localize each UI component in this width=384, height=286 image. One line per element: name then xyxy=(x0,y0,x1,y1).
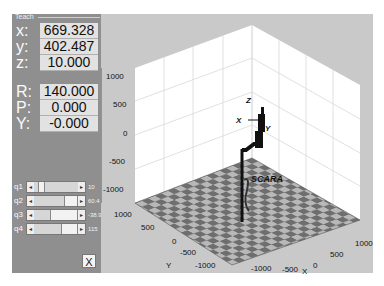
z-tick-neg500: -500 xyxy=(109,157,125,166)
axes-3d xyxy=(101,14,373,273)
y-row: y: 402.487 xyxy=(16,39,98,55)
roll-value: 140.000 xyxy=(40,84,98,100)
z-tick-neg1000: -1000 xyxy=(103,185,123,194)
y-value: 402.487 xyxy=(40,39,98,55)
x-tick-1000: 1000 xyxy=(355,239,373,248)
y-axis-label: Y xyxy=(166,261,171,270)
pitch-row: P: 0.000 xyxy=(16,100,98,116)
joint-q4-label: q4 xyxy=(14,224,26,233)
z-tick-500: 500 xyxy=(113,100,126,109)
x-value: 669.328 xyxy=(40,23,98,39)
joint-q3-label: q3 xyxy=(14,210,26,219)
yaw-label: Y: xyxy=(16,116,40,132)
arrow-right-icon[interactable]: ▸ xyxy=(78,196,85,206)
joint-q3-row: q3 ◂ ▸ -38.9 xyxy=(14,208,102,221)
x-axis-label: X xyxy=(302,267,307,276)
y-tick-500: 500 xyxy=(141,223,154,232)
x-tick-0: 0 xyxy=(313,261,317,270)
y-tick-1000: 1000 xyxy=(114,210,132,219)
x-row: x: 669.328 xyxy=(16,23,98,39)
z-tick-1000: 1000 xyxy=(106,72,124,81)
joint-q2-slider[interactable]: ◂ ▸ xyxy=(26,195,86,207)
z-tick-0: 0 xyxy=(123,129,127,138)
y-label: y: xyxy=(16,39,40,55)
pitch-value: 0.000 xyxy=(40,100,98,116)
arrow-left-icon[interactable]: ◂ xyxy=(27,224,34,234)
pitch-label: P: xyxy=(16,100,40,116)
x-tick-500: 500 xyxy=(330,250,343,259)
arrow-left-icon[interactable]: ◂ xyxy=(27,196,34,206)
yaw-row: Y: -0.000 xyxy=(16,116,98,132)
joint-q4-row: q4 ◂ ▸ 115 xyxy=(14,222,102,235)
joint-q2-label: q2 xyxy=(14,196,26,205)
joint-q1-thumb[interactable] xyxy=(38,182,45,192)
arrow-right-icon[interactable]: ▸ xyxy=(78,182,85,192)
close-button[interactable]: X xyxy=(82,254,96,268)
joint-q2-value: 60.4 xyxy=(88,198,102,204)
x-label: x: xyxy=(16,23,40,39)
joint-q2-row: q2 ◂ ▸ 60.4 xyxy=(14,194,102,207)
roll-row: R: 140.000 xyxy=(16,84,98,100)
joint-q1-label: q1 xyxy=(14,182,26,191)
frame-z-label: Z xyxy=(246,96,251,105)
panel-divider xyxy=(38,17,100,18)
frame-x-label: X xyxy=(236,116,241,125)
x-tick-neg500: -500 xyxy=(282,265,298,274)
joint-q4-value: 115 xyxy=(88,226,102,232)
z-row: z: 10.000 xyxy=(16,55,98,71)
y-tick-neg1000: -1000 xyxy=(195,261,215,270)
arrow-right-icon[interactable]: ▸ xyxy=(78,224,85,234)
joint-q4-thumb[interactable] xyxy=(61,224,78,234)
joint-q3-value: -38.9 xyxy=(88,212,102,218)
y-tick-0: 0 xyxy=(172,237,176,246)
z-value: 10.000 xyxy=(40,55,98,71)
joint-q3-slider[interactable]: ◂ ▸ xyxy=(26,209,86,221)
joint-q4-slider[interactable]: ◂ ▸ xyxy=(26,223,86,235)
joint-q1-slider[interactable]: ◂ ▸ xyxy=(26,181,86,193)
panel-title: Teach xyxy=(15,13,34,20)
joint-q1-value: 10 xyxy=(88,184,102,190)
x-tick-neg1000: -1000 xyxy=(251,264,271,273)
arrow-left-icon[interactable]: ◂ xyxy=(27,182,34,192)
frame-y-label: Y xyxy=(265,124,270,133)
z-label: z: xyxy=(16,55,40,71)
y-tick-neg500: -500 xyxy=(180,248,196,257)
teach-panel: Teach x: 669.328 y: 402.487 z: 10.000 R:… xyxy=(12,14,101,273)
robot-3d-plot[interactable]: Z X Y SCARA 1000 500 0 -500 -1000 1000 5… xyxy=(101,14,373,273)
joint-q2-thumb[interactable] xyxy=(64,196,78,206)
robot-name-label: SCARA xyxy=(251,174,283,184)
joint-q3-thumb[interactable] xyxy=(50,210,78,220)
arrow-right-icon[interactable]: ▸ xyxy=(78,210,85,220)
yaw-value: -0.000 xyxy=(40,116,98,132)
roll-label: R: xyxy=(16,84,40,100)
joint-q1-row: q1 ◂ ▸ 10 xyxy=(14,180,102,193)
arrow-left-icon[interactable]: ◂ xyxy=(27,210,34,220)
